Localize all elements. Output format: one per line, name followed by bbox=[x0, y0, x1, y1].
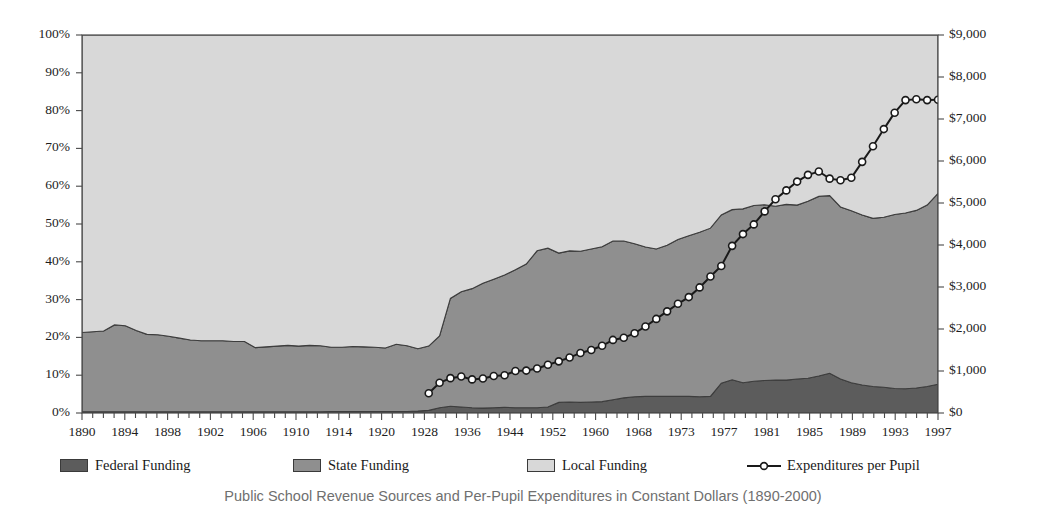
legend-item-federal-funding[interactable]: Federal Funding bbox=[60, 452, 190, 478]
expenditure-marker bbox=[458, 373, 465, 380]
legend-label-federal-funding: Federal Funding bbox=[95, 457, 190, 474]
expenditure-marker bbox=[469, 376, 476, 383]
expenditure-marker bbox=[609, 336, 616, 343]
expenditure-marker bbox=[869, 143, 876, 150]
expenditure-marker bbox=[815, 168, 822, 175]
expenditure-marker bbox=[924, 97, 931, 104]
expenditure-marker bbox=[620, 334, 627, 341]
expenditure-marker bbox=[479, 375, 486, 382]
expenditure-marker bbox=[664, 308, 671, 315]
expenditure-marker bbox=[707, 273, 714, 280]
expenditure-marker bbox=[436, 379, 443, 386]
left-axis-tick-label: 90% bbox=[0, 64, 70, 80]
expenditure-marker bbox=[685, 294, 692, 301]
expenditure-marker bbox=[729, 242, 736, 249]
expenditure-marker bbox=[718, 263, 725, 270]
expenditure-marker bbox=[555, 358, 562, 365]
expenditure-marker bbox=[588, 347, 595, 354]
bottom-axis-ticks bbox=[82, 413, 938, 420]
left-axis-tick-label: 30% bbox=[0, 291, 70, 307]
right-axis-ticks bbox=[938, 35, 944, 413]
expenditure-marker bbox=[577, 349, 584, 356]
expenditure-marker bbox=[902, 97, 909, 104]
right-axis-tick-label: $5,000 bbox=[949, 194, 986, 210]
expenditure-marker bbox=[512, 368, 519, 375]
expenditure-marker bbox=[631, 330, 638, 337]
left-axis-tick-label: 70% bbox=[0, 139, 70, 155]
right-axis-tick-label: $4,000 bbox=[949, 236, 986, 252]
legend-item-expenditures-per-pupil[interactable]: Expenditures per Pupil bbox=[747, 452, 920, 478]
chart-figure: 0%10%20%30%40%50%60%70%80%90%100% $0$1,0… bbox=[0, 0, 1046, 508]
legend-swatch-federal-funding bbox=[60, 459, 88, 472]
legend-label-local-funding: Local Funding bbox=[562, 457, 647, 474]
right-axis-tick-label: $2,000 bbox=[949, 320, 986, 336]
right-axis-tick-label: $1,000 bbox=[949, 362, 986, 378]
left-axis-tick-label: 60% bbox=[0, 177, 70, 193]
legend-label-expenditures-per-pupil: Expenditures per Pupil bbox=[787, 457, 920, 474]
expenditure-marker bbox=[674, 300, 681, 307]
expenditure-marker bbox=[523, 367, 530, 374]
expenditure-marker bbox=[837, 177, 844, 184]
expenditure-marker bbox=[696, 284, 703, 291]
expenditure-marker bbox=[783, 187, 790, 194]
left-axis-tick-label: 20% bbox=[0, 328, 70, 344]
expenditure-marker bbox=[772, 196, 779, 203]
expenditure-marker bbox=[447, 375, 454, 382]
expenditure-marker bbox=[804, 171, 811, 178]
expenditure-marker bbox=[642, 323, 649, 330]
right-axis-tick-label: $9,000 bbox=[949, 26, 986, 42]
right-axis-tick-label: $7,000 bbox=[949, 110, 986, 126]
expenditure-marker bbox=[848, 174, 855, 181]
expenditure-marker bbox=[490, 373, 497, 380]
legend-item-state-funding[interactable]: State Funding bbox=[293, 452, 409, 478]
expenditure-marker bbox=[761, 208, 768, 215]
left-axis-tick-label: 10% bbox=[0, 366, 70, 382]
expenditure-marker bbox=[501, 372, 508, 379]
expenditure-marker bbox=[425, 390, 432, 397]
right-axis-tick-label: $8,000 bbox=[949, 68, 986, 84]
left-axis-ticks bbox=[76, 35, 82, 413]
expenditure-marker bbox=[794, 178, 801, 185]
expenditure-marker bbox=[750, 221, 757, 228]
expenditure-marker bbox=[826, 175, 833, 182]
left-axis-tick-label: 50% bbox=[0, 215, 70, 231]
legend-swatch-local-funding bbox=[527, 459, 555, 472]
legend-swatch-state-funding bbox=[293, 459, 321, 472]
expenditure-marker bbox=[544, 361, 551, 368]
chart-legend: Federal Funding State Funding Local Fund… bbox=[0, 452, 1046, 478]
expenditure-marker bbox=[913, 96, 920, 103]
right-axis-tick-label: $6,000 bbox=[949, 152, 986, 168]
left-axis-tick-label: 100% bbox=[0, 26, 70, 42]
stacked-area-series bbox=[82, 35, 938, 413]
left-axis-tick-label: 80% bbox=[0, 102, 70, 118]
expenditure-marker bbox=[534, 365, 541, 372]
expenditure-marker bbox=[880, 126, 887, 133]
left-axis-tick-label: 0% bbox=[0, 404, 70, 420]
figure-caption: Public School Revenue Sources and Per-Pu… bbox=[0, 488, 1046, 508]
legend-item-local-funding[interactable]: Local Funding bbox=[527, 452, 647, 478]
right-axis-tick-label: $3,000 bbox=[949, 278, 986, 294]
bottom-axis-tick-label: 1997 bbox=[908, 424, 968, 440]
expenditure-marker bbox=[859, 158, 866, 165]
expenditure-marker bbox=[891, 109, 898, 116]
left-axis-tick-label: 40% bbox=[0, 253, 70, 269]
legend-label-state-funding: State Funding bbox=[328, 457, 409, 474]
right-axis-tick-label: $0 bbox=[949, 404, 963, 420]
expenditure-marker bbox=[739, 231, 746, 238]
expenditure-marker bbox=[566, 354, 573, 361]
expenditure-marker bbox=[599, 342, 606, 349]
expenditure-marker bbox=[653, 315, 660, 322]
line-marker-icon bbox=[747, 459, 781, 471]
